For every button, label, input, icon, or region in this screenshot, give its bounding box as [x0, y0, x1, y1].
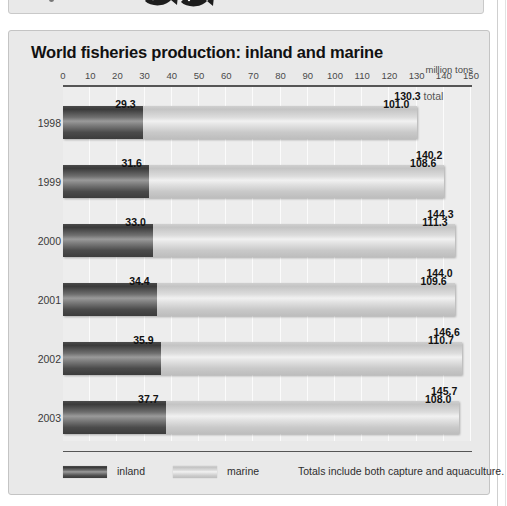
bar-segment-inland	[63, 224, 153, 257]
bar-row: 200134.4109.6144.0	[9, 266, 491, 325]
chart-legend: inland marine Totals include both captur…	[63, 462, 472, 484]
page-edge-shadow	[505, 0, 506, 506]
bar-segment-inland	[63, 283, 157, 316]
x-axis-tick-label: 90	[303, 70, 314, 81]
row-year-label: 2001	[9, 294, 61, 306]
bar-total-label: 140.2	[63, 149, 442, 161]
bar-total-label: 145.7	[63, 385, 457, 397]
bar-total-label: 146.6	[63, 326, 460, 338]
bar-segment-marine	[157, 283, 455, 316]
stacked-bar	[63, 283, 455, 316]
bar-total-label: 144.3	[63, 208, 453, 220]
page-edge-rule	[497, 0, 498, 506]
stacked-bar	[63, 401, 459, 434]
x-axis-tick-label: 130	[409, 70, 425, 81]
bar-segment-inland	[63, 165, 149, 198]
footer-rule	[63, 451, 472, 452]
page-title: World fisheries production: inland and m…	[31, 43, 383, 62]
x-axis-tick-label: 50	[194, 70, 205, 81]
x-axis-line	[63, 85, 472, 87]
row-year-label: 1999	[9, 176, 61, 188]
bar-segment-inland	[63, 342, 161, 375]
page-root: World fisheries production: inland and m…	[0, 0, 507, 506]
bar-row: 200235.9110.7146.6	[9, 325, 491, 384]
row-year-label: 1998	[9, 117, 61, 129]
bar-total-suffix: total	[421, 90, 444, 102]
x-axis-tick-label: 30	[139, 70, 150, 81]
stacked-bar	[63, 342, 462, 375]
x-axis-tick-label: 110	[355, 70, 370, 81]
x-axis-tick-label: 10	[85, 70, 96, 81]
stacked-bar	[63, 165, 444, 198]
x-axis-tick-label: 40	[167, 70, 178, 81]
chart-panel: World fisheries production: inland and m…	[8, 30, 490, 495]
x-axis-tick-label: 150	[463, 70, 479, 81]
bar-segment-marine	[166, 401, 460, 434]
x-axis-tick-label: 120	[381, 70, 397, 81]
bar-segment-marine	[161, 342, 462, 375]
row-year-label: 2000	[9, 235, 61, 247]
bullet-icon	[49, 0, 54, 2]
x-axis-tick-label: 60	[221, 70, 232, 81]
bar-segment-marine	[143, 106, 418, 139]
bar-row: 200033.0111.3144.3	[9, 207, 491, 266]
row-year-label: 2002	[9, 353, 61, 365]
legend-note: Totals include both capture and aquacult…	[298, 465, 504, 477]
bar-row: 199931.6108.6140.2	[9, 148, 491, 207]
bar-segment-inland	[63, 401, 166, 434]
fish-illustration-icon	[141, 0, 219, 9]
bar-segment-marine	[149, 165, 444, 198]
previous-panel-remnant	[8, 0, 484, 14]
bar-row: 200337.7108.0145.7	[9, 384, 491, 443]
legend-swatch-inland	[63, 466, 107, 478]
bar-segment-inland	[63, 106, 143, 139]
x-axis-tick-label: 20	[112, 70, 123, 81]
x-axis-tick-label: 140	[436, 70, 452, 81]
legend-label-marine: marine	[227, 465, 259, 477]
x-axis-tick-label: 100	[327, 70, 343, 81]
legend-swatch-marine	[173, 466, 217, 478]
x-axis-tick-label: 80	[275, 70, 286, 81]
stacked-bar	[63, 106, 417, 139]
x-axis-tick-label: 0	[60, 70, 65, 81]
row-year-label: 2003	[9, 412, 61, 424]
legend-label-inland: inland	[117, 465, 145, 477]
bar-total-label: 144.0	[63, 267, 453, 279]
bar-segment-marine	[153, 224, 456, 257]
stacked-bar	[63, 224, 455, 257]
x-axis-tick-label: 70	[248, 70, 259, 81]
bar-total-label: 130.3 total	[63, 90, 443, 102]
bar-row: 199829.3101.0130.3 total	[9, 89, 491, 148]
